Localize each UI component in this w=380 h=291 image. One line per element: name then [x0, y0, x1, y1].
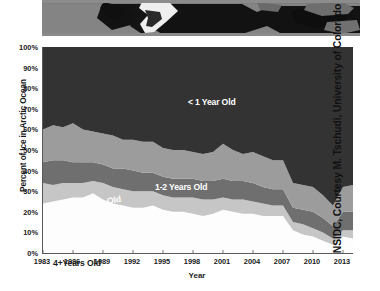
- x-tick-label: 2001: [214, 257, 230, 266]
- y-tick-label: 70%: [8, 104, 38, 113]
- source-credit: NSIDC, Courtesy M. Tschudi, University o…: [332, 0, 343, 269]
- y-tick-label: 30%: [8, 187, 38, 196]
- x-tick-label: 1983: [34, 257, 50, 266]
- x-tick-label: 1989: [94, 257, 110, 266]
- x-tick-label: 1998: [184, 257, 200, 266]
- ice-age-stacked-area-chart: Percent of Ice in Arctic Ocean 0%10%20%3…: [0, 36, 380, 291]
- x-tick-label: 1992: [124, 257, 140, 266]
- x-tick-label: 1986: [64, 257, 80, 266]
- x-tick-label: 1995: [154, 257, 170, 266]
- y-tick-label: 80%: [8, 84, 38, 93]
- y-tick-label: 50%: [8, 146, 38, 155]
- x-tick-label: 2010: [304, 257, 320, 266]
- x-axis-title: Year: [42, 271, 352, 280]
- y-tick-label: 40%: [8, 166, 38, 175]
- y-axis-tick-labels: 0%10%20%30%40%50%60%70%80%90%100%: [8, 47, 38, 253]
- x-axis-tick-labels: 1983198619891992199519982001200420072010…: [42, 257, 352, 269]
- series-label-less-than-1-year: < 1 Year Old: [188, 97, 236, 107]
- series-label-1-2-years: 1-2 Years Old: [155, 182, 207, 192]
- x-tick-label: 2007: [274, 257, 290, 266]
- x-tick-label: 2004: [244, 257, 260, 266]
- y-tick-label: 100%: [8, 43, 38, 52]
- y-tick-label: 60%: [8, 125, 38, 134]
- y-tick-label: 10%: [8, 228, 38, 237]
- y-tick-label: 90%: [8, 63, 38, 72]
- y-tick-label: 20%: [8, 207, 38, 216]
- satellite-photo-graphic: [42, 0, 360, 36]
- arctic-satellite-photo: [42, 0, 360, 36]
